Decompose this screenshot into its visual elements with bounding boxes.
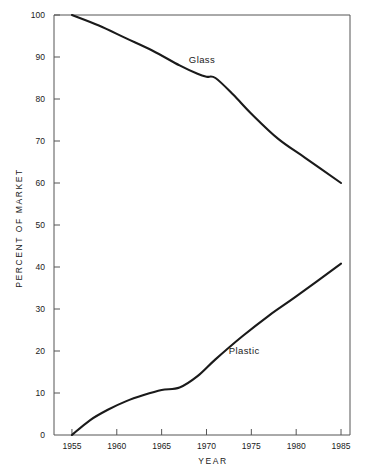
y-tick-label: 80 xyxy=(36,94,46,104)
x-axis-title: YEAR xyxy=(198,456,228,466)
x-tick-label: 1970 xyxy=(197,441,216,451)
series-label-plastic: Plastic xyxy=(229,345,260,356)
y-tick-label: 20 xyxy=(36,346,46,356)
x-tick-label: 1965 xyxy=(152,441,171,451)
y-axis-ticks: 0102030405060708090100 xyxy=(31,10,60,440)
y-tick-label: 10 xyxy=(36,388,46,398)
y-axis-title: PERCENT OF MARKET xyxy=(14,168,24,288)
x-tick-label: 1980 xyxy=(287,441,306,451)
y-tick-label: 40 xyxy=(36,262,46,272)
y-tick-label: 90 xyxy=(36,52,46,62)
x-tick-label: 1985 xyxy=(332,441,351,451)
y-tick-label: 100 xyxy=(31,10,45,20)
y-tick-label: 50 xyxy=(36,220,46,230)
series-group xyxy=(72,15,341,435)
chart-figure: 0102030405060708090100 19551960196519701… xyxy=(0,0,374,475)
x-axis-ticks: 1955196019651970197519801985 xyxy=(62,429,350,451)
series-line-plastic xyxy=(72,264,341,435)
x-tick-label: 1975 xyxy=(242,441,261,451)
y-tick-label: 70 xyxy=(36,136,46,146)
market-share-line-chart: 0102030405060708090100 19551960196519701… xyxy=(0,0,374,475)
y-tick-label: 60 xyxy=(36,178,46,188)
x-tick-label: 1960 xyxy=(107,441,126,451)
x-tick-label: 1955 xyxy=(62,441,81,451)
series-line-glass xyxy=(72,15,341,183)
series-label-glass: Glass xyxy=(189,54,215,65)
y-tick-label: 0 xyxy=(40,430,45,440)
y-tick-label: 30 xyxy=(36,304,46,314)
series-annotations: GlassPlastic xyxy=(189,54,260,356)
